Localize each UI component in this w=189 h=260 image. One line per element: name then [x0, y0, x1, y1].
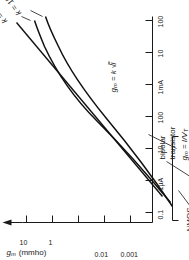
x-tick-label-6: 100: [156, 15, 163, 27]
gm-ivt-equals: =: [179, 142, 188, 151]
y-axis-title: gm(mmho): [6, 248, 46, 257]
annotation-bipolar-transistor: bipolar transistor: [158, 126, 176, 159]
bipolar-line-2: transistor: [168, 126, 176, 159]
transconductance-log-log-chart: 0.1 1µA 10 100 1mA 10 100 0.001 0.01 1 1…: [0, 0, 189, 260]
bipolar-line-1: bipolar: [158, 126, 166, 159]
annotation-gm-sqrt-i: gm = k√I: [108, 61, 118, 92]
gm-ivt-vsub: T: [182, 128, 188, 132]
y-tick-label-1: 0.01: [94, 250, 108, 257]
y-axis-arrow-head: [2, 219, 11, 225]
annotation-gm-i-over-vt: gm = I/VT: [180, 128, 189, 160]
gm-sqrt-equals: =: [108, 74, 117, 83]
x-tick-label-5: 10: [156, 49, 163, 57]
x-tick-label-0: 0.1: [156, 209, 163, 219]
gm-ivt-v: V: [179, 132, 188, 137]
curve-bipolar-transistor: [16, 22, 162, 196]
y-axis: [2, 215, 152, 225]
gm-sqrt-k: k: [108, 70, 117, 74]
gm-sqrt-i: I: [108, 61, 117, 64]
leader-k10: [30, 10, 42, 16]
leader-nmos: [178, 190, 189, 206]
y-axis-title-unit: (mmho): [18, 247, 46, 256]
y-tick-label-3: 10: [19, 238, 27, 245]
leader-k100: [21, 16, 30, 20]
x-axis: [145, 16, 152, 222]
y-tick-label-0: 0.001: [120, 250, 138, 257]
figure-screenshot: 0.1 1µA 10 100 1mA 10 100 0.001 0.01 1 1…: [0, 0, 189, 260]
x-tick-label-1: 1µA: [156, 177, 163, 190]
y-tick-label-2: 1: [48, 238, 52, 245]
y-axis-title-sub: m: [10, 250, 15, 256]
x-tick-label-3: 100: [156, 111, 163, 123]
annotation-nmos: NMOS: [185, 207, 189, 231]
x-tick-label-4: 1mA: [156, 80, 163, 94]
leader-pmos: [166, 161, 189, 180]
